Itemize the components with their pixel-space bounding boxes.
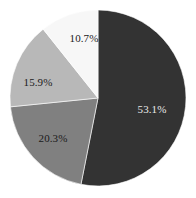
pie-chart-canvas: 53.1% 20.3% 15.9% 10.7% bbox=[0, 0, 196, 198]
pie-slice-4-label: 10.7% bbox=[70, 32, 99, 44]
pie-slice-3-label: 15.9% bbox=[24, 76, 53, 88]
pie-chart-figure: 53.1% 20.3% 15.9% 10.7% bbox=[0, 0, 196, 198]
pie-slice-2-label: 20.3% bbox=[39, 132, 68, 144]
pie-slice-1-label: 53.1% bbox=[138, 103, 167, 115]
